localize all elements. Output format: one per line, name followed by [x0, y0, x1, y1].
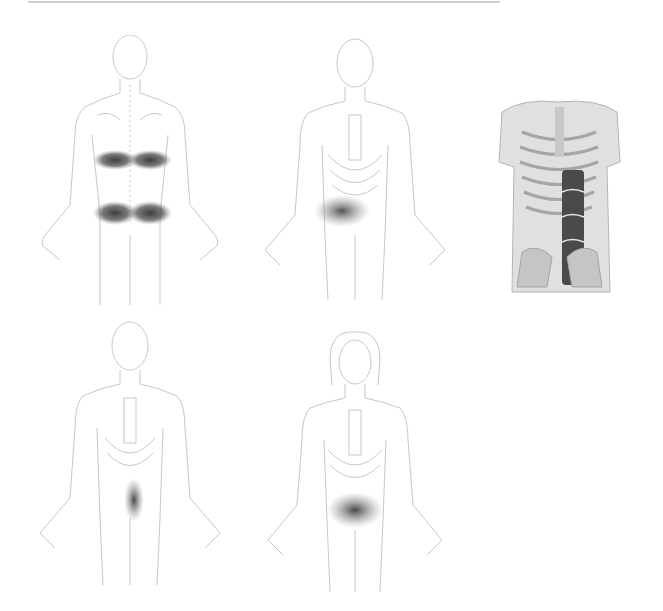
- top-divider-rule: [28, 1, 500, 3]
- figure-muscle-illustration: [492, 92, 627, 297]
- figure-front-view-lower-rectus: [30, 320, 240, 590]
- figure-front-view-female-lower-abdomen: [250, 330, 460, 595]
- figure-front-view-right-abdomen: [250, 35, 460, 305]
- figure-back-view: [30, 35, 230, 310]
